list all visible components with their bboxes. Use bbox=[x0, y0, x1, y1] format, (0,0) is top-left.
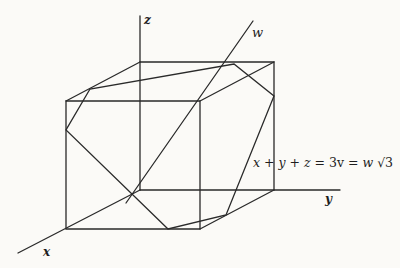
plane-equation: x + y + z = 3v = w √3 bbox=[253, 157, 393, 170]
cube-diagram bbox=[0, 0, 400, 268]
cube-edge-bottom-right bbox=[200, 190, 274, 229]
cube-edge-top-left bbox=[66, 62, 140, 101]
cube-front-face bbox=[66, 101, 200, 229]
equation-mid: 3v bbox=[329, 155, 344, 170]
w-axis-label: w bbox=[252, 26, 263, 39]
x-axis bbox=[18, 190, 140, 253]
equation-rhs-var: w bbox=[362, 155, 373, 170]
cube-back-edges bbox=[140, 62, 274, 190]
z-axis-label: z bbox=[144, 14, 151, 26]
equals-sign-1: = bbox=[315, 155, 325, 170]
equals-sign-2: = bbox=[348, 155, 358, 170]
sqrt3: √3 bbox=[377, 155, 393, 170]
y-axis-label: y bbox=[325, 193, 332, 205]
equation-lhs: x + y + z bbox=[253, 155, 311, 170]
w-axis bbox=[126, 21, 253, 203]
x-axis-label: x bbox=[43, 246, 50, 258]
hexagon-cross-section bbox=[66, 64, 274, 229]
